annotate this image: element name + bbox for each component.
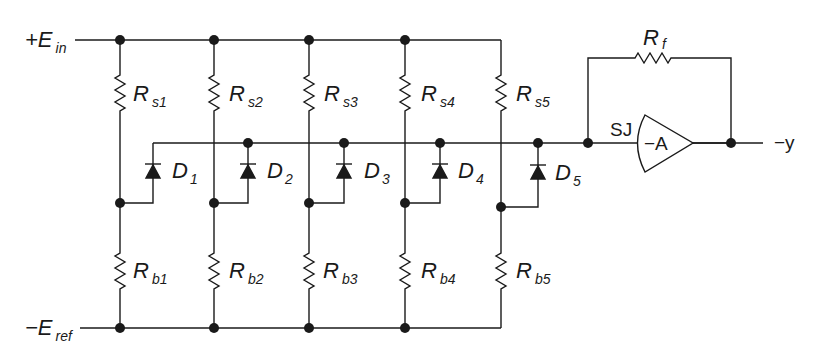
diode-d2-icon: [240, 164, 256, 178]
diode-d3-icon: [336, 164, 352, 178]
label-rb5: Rb5: [516, 260, 550, 282]
label-rs2: Rs2: [229, 83, 263, 105]
label-summing-junction: SJ: [610, 120, 632, 139]
label-rb2: Rb2: [229, 260, 263, 282]
label-output: −y: [774, 133, 795, 152]
label-amplifier-gain: −A: [644, 134, 668, 153]
circuit-diagram: +Ein −Eref Rs1 Rs2 Rs3 Rs4 Rs5 D1 D2 D3 …: [0, 0, 821, 348]
label-rs5: Rs5: [516, 83, 550, 105]
label-rb4: Rb4: [421, 260, 455, 282]
label-rs4: Rs4: [421, 83, 455, 105]
circuit-schematic: [0, 0, 821, 348]
resistor-rs4-icon: [400, 40, 410, 328]
resistor-rs2-icon: [209, 40, 219, 328]
label-d2: D2: [267, 160, 293, 182]
input-label-eref: −Eref: [25, 317, 72, 339]
diode-d4-icon: [432, 164, 448, 178]
resistor-rs3-icon: [304, 40, 314, 328]
resistor-rs5-icon: [496, 40, 506, 328]
input-label-ein: +Ein: [25, 29, 66, 51]
junction-dots: [115, 35, 736, 333]
label-rb1: Rb1: [133, 260, 167, 282]
label-rf: Rf: [643, 27, 666, 49]
diode-d4-lead: [405, 143, 440, 203]
label-d4: D4: [458, 160, 484, 182]
diode-d5-icon: [530, 165, 546, 179]
label-d3: D3: [364, 160, 390, 182]
diode-d3-lead: [309, 143, 344, 203]
label-d1: D1: [172, 160, 198, 182]
resistor-rs1-icon: [115, 40, 125, 328]
label-rs1: Rs1: [133, 83, 167, 105]
diode-d1-icon: [145, 164, 161, 178]
label-rs3: Rs3: [324, 83, 358, 105]
label-rb3: Rb3: [323, 260, 357, 282]
label-d5: D5: [555, 162, 581, 184]
